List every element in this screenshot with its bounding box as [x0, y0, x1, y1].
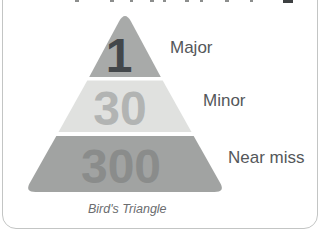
pyramid-value-major: 1 — [106, 29, 133, 82]
cropped-text-fragment — [250, 0, 253, 2]
cropped-text-fragment — [283, 0, 293, 3]
level-label-major: Major — [170, 38, 213, 58]
pyramid-value-nearmiss: 300 — [81, 140, 161, 193]
cropped-text-fragment — [110, 0, 114, 2]
cropped-text-fragment — [185, 0, 189, 2]
level-label-nearmiss: Near miss — [228, 148, 305, 168]
diagram-caption: Bird's Triangle — [88, 202, 167, 216]
pyramid-value-minor: 30 — [93, 82, 146, 135]
cropped-text-fragment — [200, 0, 203, 2]
cropped-text-fragment — [150, 0, 154, 2]
cropped-text-fragment — [75, 0, 79, 2]
cropped-text-fragment — [163, 0, 166, 2]
level-label-minor: Minor — [203, 91, 246, 111]
cropped-text-fragment — [225, 0, 229, 2]
cropped-text-fragment — [130, 0, 133, 2]
